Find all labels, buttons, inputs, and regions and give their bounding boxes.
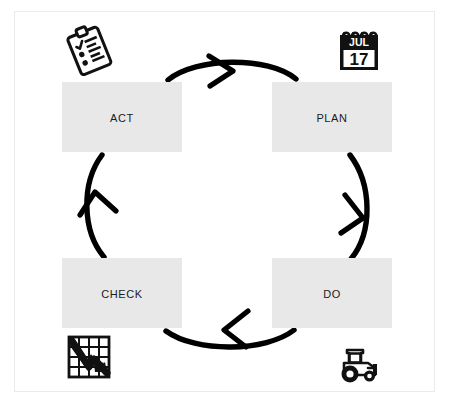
pdca-cycle-diagram: Act Plan Check Do — [0, 0, 451, 407]
node-act[interactable]: Act — [62, 82, 182, 152]
node-plan[interactable]: Plan — [272, 82, 392, 152]
arrow-check-to-act — [80, 155, 116, 257]
arrow-plan-to-do — [341, 155, 367, 259]
node-check[interactable]: Check — [62, 258, 182, 328]
node-do[interactable]: Do — [272, 258, 392, 328]
tractor-icon — [331, 337, 383, 389]
calendar-month-text: JUL — [349, 36, 369, 48]
node-do-label: Do — [323, 284, 341, 302]
clipboard-checklist-icon — [63, 24, 115, 76]
calendar-icon: JUL 17 — [332, 26, 384, 78]
node-check-label: Check — [101, 284, 143, 302]
node-act-label: Act — [110, 108, 134, 126]
node-plan-label: Plan — [316, 108, 347, 126]
declining-chart-icon — [63, 331, 115, 383]
calendar-day-text: 17 — [350, 50, 369, 69]
